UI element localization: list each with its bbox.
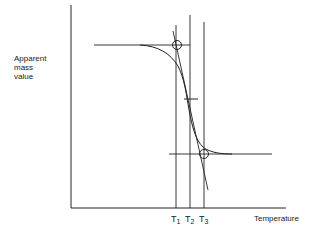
t2-label: T2 — [185, 215, 194, 226]
t1-subscript: 1 — [177, 218, 181, 225]
diagram-canvas — [0, 0, 313, 241]
inflection-tangent — [173, 31, 208, 190]
y-axis-label-line: mass — [14, 63, 64, 72]
t2-subscript: 2 — [191, 218, 195, 225]
x-axis-label: Temperature — [254, 214, 299, 223]
t3-subscript: 3 — [205, 218, 209, 225]
y-axis-label-line: value — [14, 72, 64, 81]
y-axis-label: Apparent mass value — [14, 54, 64, 81]
t3-label: T3 — [199, 215, 208, 226]
y-axis-label-line: Apparent — [14, 54, 64, 63]
t1-label: T1 — [171, 215, 180, 226]
